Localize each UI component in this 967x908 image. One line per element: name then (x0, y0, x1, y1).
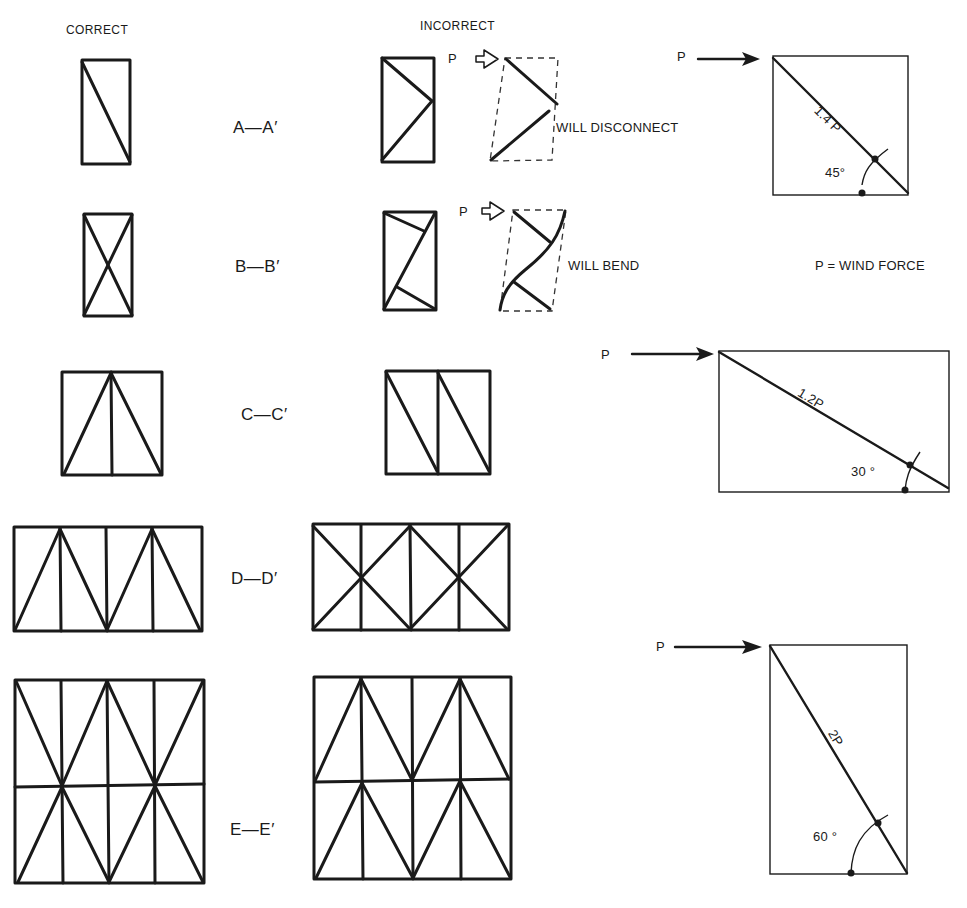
force-p-label-2: P (601, 347, 610, 362)
frame-b-incorrect (384, 212, 436, 310)
frame-b-deformed (500, 210, 566, 311)
frame-a-correct (82, 60, 130, 164)
note-will-disconnect: WILL DISCONNECT (556, 120, 678, 135)
section-label-d: D—D′ (231, 569, 278, 589)
section-label-c: C—C′ (241, 405, 288, 425)
section-label-e: E—E′ (230, 820, 275, 840)
frame-d-incorrect (313, 524, 509, 630)
force-label-b: P (459, 204, 468, 219)
header-correct: CORRECT (66, 23, 128, 37)
hollow-arrow-icon-a (476, 50, 498, 68)
force-diagram-30 (632, 347, 949, 494)
frame-c-correct (62, 372, 162, 475)
angle-label-45: 45° (825, 165, 845, 180)
frame-c-incorrect (386, 371, 490, 474)
frame-e-incorrect (314, 677, 511, 879)
force-label-a: P (448, 51, 457, 66)
section-label-a: A—A′ (233, 118, 278, 138)
hollow-arrow-icon-b (482, 202, 504, 220)
angle-label-30: 30 ° (851, 464, 875, 479)
angle-label-60: 60 ° (813, 829, 837, 844)
force-diagram-60 (675, 640, 907, 877)
frame-d-correct (14, 527, 202, 631)
frame-b-correct (84, 214, 132, 316)
header-incorrect: INCORRECT (420, 19, 495, 33)
legend-wind-force: P = WIND FORCE (815, 258, 925, 273)
frame-e-correct (15, 680, 204, 883)
bracing-diagram (0, 0, 967, 908)
force-diagram-45 (698, 52, 908, 197)
force-p-label-3: P (656, 639, 665, 654)
frame-a-deformed (490, 58, 558, 161)
note-will-bend: WILL BEND (568, 258, 639, 273)
section-label-b: B—B′ (235, 257, 280, 277)
frame-a-incorrect (382, 58, 434, 162)
force-p-label-1: P (677, 49, 686, 64)
